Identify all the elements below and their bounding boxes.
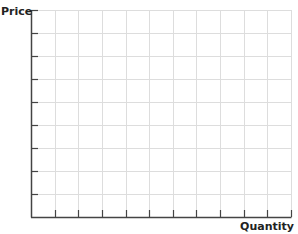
y-axis-label: Price — [1, 5, 32, 18]
chart-grid — [0, 0, 298, 234]
x-axis-label: Quantity — [240, 220, 294, 233]
blank-price-quantity-chart: Price Quantity — [0, 0, 298, 234]
